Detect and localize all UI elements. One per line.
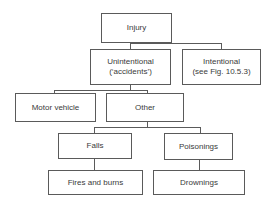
node-drownings-label: Drownings [180,178,218,188]
node-drownings: Drownings [153,170,245,195]
connector-level4-bar [94,127,201,128]
node-injury-label: Injury [127,23,147,33]
node-poisonings: Poisonings [164,133,233,160]
node-intentional-line1: Intentional [203,57,240,67]
node-unintentional: Unintentional (‘accidents’) [90,49,171,85]
node-falls: Falls [58,133,132,159]
node-intentional: Intentional (see Fig. 10.5.3) [182,49,261,85]
node-intentional-line2: (see Fig. 10.5.3) [192,67,250,77]
connector-level3-bar [54,90,148,91]
node-injury: Injury [101,13,172,43]
node-other: Other [106,93,184,122]
injury-classification-diagram: Injury Unintentional (‘accidents’) Inten… [0,0,269,207]
node-unintentional-line1: Unintentional [107,57,154,67]
node-motor-vehicle: Motor vehicle [15,93,96,122]
node-poisonings-label: Poisonings [179,142,218,152]
node-motor-vehicle-label: Motor vehicle [32,103,80,113]
node-other-label: Other [135,103,155,113]
connector-falls-to-fires [94,158,95,170]
connector-poisonings-to-drownings [199,159,200,170]
node-fires-and-burns-label: Fires and burns [68,178,124,188]
node-falls-label: Falls [87,141,104,151]
node-unintentional-line2: (‘accidents’) [109,67,152,77]
node-fires-and-burns: Fires and burns [48,170,143,195]
connector-level2-bar [130,43,222,44]
